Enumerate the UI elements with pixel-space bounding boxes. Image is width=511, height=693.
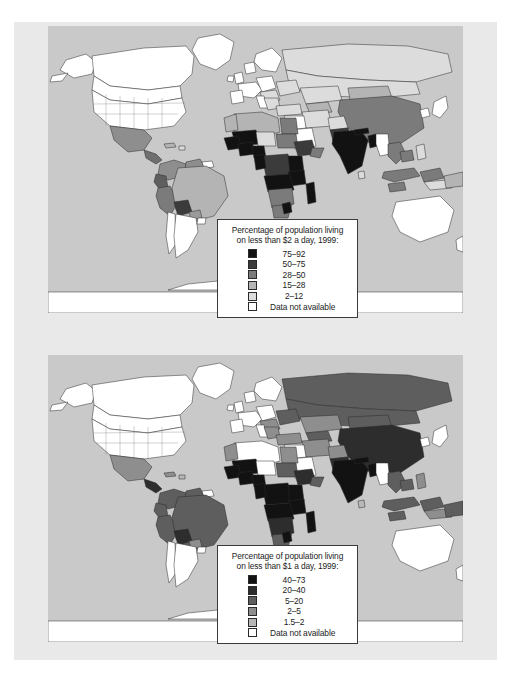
legend-entry: 2–5 <box>226 606 349 617</box>
legend-title-line-1: Percentage of population living <box>226 551 349 561</box>
legend-swatch <box>248 260 257 269</box>
legend-entry-label: 28–50 <box>270 270 318 280</box>
legend-entry: 75–92 <box>226 248 349 259</box>
legend-swatch <box>248 596 257 605</box>
legend-swatch <box>248 628 257 637</box>
legend-entry: Data not available <box>226 301 349 312</box>
legend-entry: 5–20 <box>226 596 349 607</box>
legend-entry: 15–28 <box>226 280 349 291</box>
legend-entry: 1.5–2 <box>226 617 349 628</box>
legend-title-line-2: on less than $2 a day, 1999: <box>226 235 349 245</box>
legend-swatch <box>248 270 257 279</box>
legend-entry-label: 2–12 <box>270 291 318 301</box>
legend-entry-label: 75–92 <box>270 249 318 259</box>
legend-entry-label: 50–75 <box>270 259 318 269</box>
legend-entry: 2–12 <box>226 291 349 302</box>
legend-entry: 20–40 <box>226 585 349 596</box>
legend-1-dollar: Percentage of population living on less … <box>217 545 358 644</box>
legend-entry-label: 2–5 <box>270 606 318 616</box>
legend-2-dollars: Percentage of population living on less … <box>217 219 358 318</box>
legend-swatch <box>248 586 257 595</box>
legend-swatch <box>248 575 257 584</box>
legend-entry-label: 5–20 <box>270 596 318 606</box>
legend-swatch <box>248 249 257 258</box>
figure-panel: Percentage of population living on less … <box>14 22 497 660</box>
legend-entry-label: Data not available <box>270 302 335 312</box>
legend-title-line-2: on less than $1 a day, 1999: <box>226 561 349 571</box>
legend-swatch <box>248 618 257 627</box>
legend-entry: Data not available <box>226 627 349 638</box>
legend-entry: 28–50 <box>226 270 349 281</box>
legend-swatch <box>248 292 257 301</box>
legend-entry: 40–73 <box>226 574 349 585</box>
legend-entry-label: 20–40 <box>270 585 318 595</box>
legend-entry-label: 15–28 <box>270 280 318 290</box>
legend-title-line-1: Percentage of population living <box>226 225 349 235</box>
legend-entry-label: 40–73 <box>270 575 318 585</box>
legend-entry-label: Data not available <box>270 628 335 638</box>
legend-swatch <box>248 281 257 290</box>
legend-entry-label: 1.5–2 <box>270 617 318 627</box>
legend-entries-bottom: 40–73 20–40 5–20 2–5 1.5–2 Data not avai… <box>226 574 349 638</box>
legend-entries-top: 75–92 50–75 28–50 15–28 2–12 Data not av… <box>226 248 349 312</box>
legend-entry: 50–75 <box>226 259 349 270</box>
legend-swatch <box>248 607 257 616</box>
legend-swatch <box>248 302 257 311</box>
